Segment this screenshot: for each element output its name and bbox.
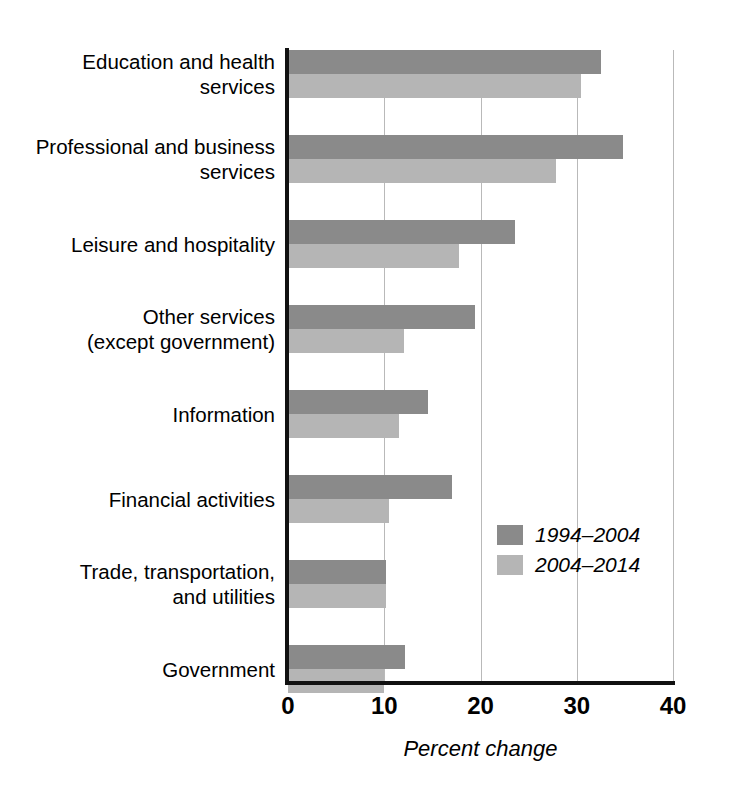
plot-area <box>288 50 673 683</box>
category-label: Education and healthservices <box>5 49 275 99</box>
y-axis-line <box>285 48 289 685</box>
x-tick-label: 20 <box>451 692 511 720</box>
bar <box>288 244 459 268</box>
x-tick-label: 40 <box>643 692 703 720</box>
category-label-line: Financial activities <box>5 487 275 512</box>
x-axis-line <box>285 681 675 685</box>
gridline-40 <box>673 50 674 683</box>
bar <box>288 305 475 329</box>
bar <box>288 414 399 438</box>
bar <box>288 390 428 414</box>
bar <box>288 329 404 353</box>
category-label-line: (except government) <box>5 329 275 354</box>
category-label: Financial activities <box>5 487 275 512</box>
bar-chart: Education and healthservicesProfessional… <box>0 0 730 790</box>
category-label: Leisure and hospitality <box>5 232 275 257</box>
category-label-line: services <box>5 74 275 99</box>
bar <box>288 50 601 74</box>
legend-swatch-icon <box>497 555 523 575</box>
bar <box>288 220 515 244</box>
category-axis-labels: Education and healthservicesProfessional… <box>0 0 275 790</box>
category-label-line: Other services <box>5 304 275 329</box>
x-tick-label: 10 <box>354 692 414 720</box>
legend-swatch-icon <box>497 525 523 545</box>
bar <box>288 645 405 669</box>
category-label-line: Trade, transportation, <box>5 559 275 584</box>
bar <box>288 159 556 183</box>
category-label-line: Information <box>5 402 275 427</box>
bar <box>288 74 581 98</box>
legend-item: 2004–2014 <box>497 550 640 580</box>
category-label-line: Government <box>5 657 275 682</box>
bar <box>288 499 389 523</box>
x-tick-label: 0 <box>258 692 318 720</box>
category-label: Other services(except government) <box>5 304 275 354</box>
category-label-line: Professional and business <box>5 134 275 159</box>
x-tick-label: 30 <box>547 692 607 720</box>
legend: 1994–2004 2004–2014 <box>497 520 640 580</box>
bar <box>288 584 386 608</box>
category-label: Professional and businessservices <box>5 134 275 184</box>
legend-item: 1994–2004 <box>497 520 640 550</box>
category-label-line: and utilities <box>5 584 275 609</box>
bar <box>288 135 623 159</box>
category-label: Information <box>5 402 275 427</box>
category-label: Trade, transportation,and utilities <box>5 559 275 609</box>
category-label-line: services <box>5 159 275 184</box>
bar <box>288 560 386 584</box>
legend-label: 1994–2004 <box>535 523 640 547</box>
category-label-line: Education and health <box>5 49 275 74</box>
legend-label: 2004–2014 <box>535 553 640 577</box>
bar <box>288 475 452 499</box>
x-axis-title: Percent change <box>288 736 673 762</box>
category-label: Government <box>5 657 275 682</box>
category-label-line: Leisure and hospitality <box>5 232 275 257</box>
